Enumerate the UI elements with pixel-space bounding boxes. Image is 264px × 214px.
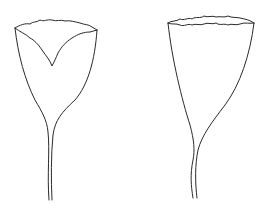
left-cup-right: [51, 30, 97, 200]
left-rim-outer: [15, 20, 97, 30]
left-specimen: [15, 20, 97, 200]
left-rim-inner: [15, 28, 97, 66]
right-rim-inner: [168, 23, 254, 26]
right-cup-right: [196, 23, 254, 198]
right-specimen: [168, 16, 254, 198]
figure-canvas: [0, 0, 264, 214]
right-rim-outer: [168, 16, 254, 23]
right-cup-left: [168, 23, 194, 198]
left-cup-left: [15, 28, 49, 200]
